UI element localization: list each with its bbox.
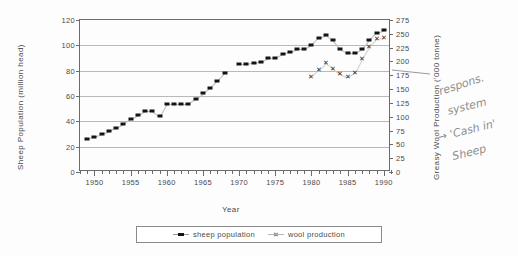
y-axis-left-tick (76, 121, 80, 122)
y-axis-right-tick-label: 225 (396, 44, 428, 53)
chart-screenshot: Sheep Population (million head) Greasy W… (0, 0, 518, 256)
x-axis-minor-tick (181, 170, 182, 174)
data-point (99, 133, 104, 136)
gridline (80, 45, 389, 46)
x-axis-minor-tick (123, 170, 124, 174)
data-point (360, 48, 365, 51)
y-axis-right-tick (389, 131, 393, 132)
data-point (273, 57, 278, 60)
x-axis-minor-tick (152, 170, 153, 174)
legend-item-wool-production: ✕ wool production (268, 230, 345, 239)
data-point: ✕ (352, 69, 358, 76)
y-axis-right-tick-label: 0 (396, 168, 428, 177)
data-point (309, 44, 314, 47)
x-axis-tick-label: 1955 (122, 178, 140, 187)
y-axis-right-tick-label: 250 (396, 30, 428, 39)
x-axis-minor-tick (138, 170, 139, 174)
y-axis-right-tick (389, 103, 393, 104)
x-axis-tick-label: 1980 (302, 178, 320, 187)
data-point: ✕ (323, 59, 329, 66)
x-axis-minor-tick (283, 170, 284, 174)
data-point (121, 122, 126, 125)
x-axis-minor-tick (261, 170, 262, 174)
x-axis-minor-tick (87, 170, 88, 174)
data-point (150, 110, 155, 113)
x-axis-minor-tick (369, 170, 370, 174)
data-point: ✕ (359, 55, 365, 62)
x-marker-icon: ✕ (268, 231, 284, 238)
data-point (280, 53, 285, 56)
x-axis-tick-label: 1970 (230, 178, 248, 187)
x-axis-tick-label: 1960 (158, 178, 176, 187)
y-axis-right-tick-label: 100 (396, 113, 428, 122)
x-axis-minor-tick (145, 170, 146, 174)
x-axis-minor-tick (304, 170, 305, 174)
x-axis-minor-tick (116, 170, 117, 174)
x-axis-minor-tick (290, 170, 291, 174)
y-axis-right-tick-label: 50 (396, 140, 428, 149)
data-point (186, 102, 191, 105)
y-axis-right-tick (389, 61, 393, 62)
x-axis-tick-label: 1975 (266, 178, 284, 187)
y-axis-left-tick-label: 0 (45, 168, 75, 177)
data-point (374, 31, 379, 34)
data-point (114, 126, 119, 129)
x-axis-major-tick (203, 170, 204, 176)
y-axis-left-tick-label: 40 (45, 117, 75, 126)
x-axis-tick-label: 1990 (375, 178, 393, 187)
y-axis-left-tick-label: 100 (45, 41, 75, 50)
data-point (258, 60, 263, 63)
x-axis-minor-tick (268, 170, 269, 174)
handwritten-note: system (446, 95, 488, 117)
gridline (80, 147, 389, 148)
y-axis-left-tick (76, 147, 80, 148)
x-axis-minor-tick (232, 170, 233, 174)
data-point (331, 39, 336, 42)
x-axis-minor-tick (355, 170, 356, 174)
y-axis-right-tick (389, 158, 393, 159)
y-axis-left-tick-label: 20 (45, 143, 75, 152)
data-point (200, 92, 205, 95)
y-axis-left-tick-label: 80 (45, 67, 75, 76)
data-point (323, 34, 328, 37)
data-point (338, 48, 343, 51)
y-axis-left-title: Sheep Population (million head) (16, 44, 25, 170)
legend-item-sheep-population: sheep population (173, 230, 255, 239)
y-axis-right-tick-label: 175 (396, 71, 428, 80)
data-point (143, 110, 148, 113)
data-point (85, 138, 90, 141)
data-point (135, 114, 140, 117)
y-axis-right-tick-label: 200 (396, 57, 428, 66)
x-axis-major-tick (275, 170, 276, 176)
x-axis-minor-tick (297, 170, 298, 174)
x-axis-minor-tick (174, 170, 175, 174)
y-axis-right-tick (389, 34, 393, 35)
handwritten-note: → 'Cash in' (436, 117, 497, 144)
data-point (92, 135, 97, 138)
legend-label: sheep population (193, 230, 255, 239)
data-point (244, 63, 249, 66)
y-axis-left-tick-label: 60 (45, 92, 75, 101)
data-point (266, 57, 271, 60)
x-axis-major-tick (94, 170, 95, 176)
x-axis-minor-tick (80, 170, 81, 174)
y-axis-right-tick-label: 125 (396, 99, 428, 108)
gridline (80, 96, 389, 97)
y-axis-left-tick (76, 20, 80, 21)
data-point: ✕ (345, 73, 351, 80)
y-axis-right-tick (389, 20, 393, 21)
data-point (381, 29, 386, 32)
x-axis-minor-tick (246, 170, 247, 174)
x-axis-major-tick (384, 170, 385, 176)
data-point: ✕ (381, 34, 387, 41)
x-axis-minor-tick (188, 170, 189, 174)
y-axis-right-tick (389, 75, 393, 76)
data-point (251, 62, 256, 65)
data-point (164, 102, 169, 105)
x-axis-minor-tick (333, 170, 334, 174)
y-axis-left-tick-label: 120 (45, 16, 75, 25)
y-axis-right-title: Greasy Wool Production ('000 tonne) (432, 35, 441, 180)
x-axis-major-tick (311, 170, 312, 176)
x-axis-tick-label: 1965 (194, 178, 212, 187)
y-axis-right-tick (389, 89, 393, 90)
